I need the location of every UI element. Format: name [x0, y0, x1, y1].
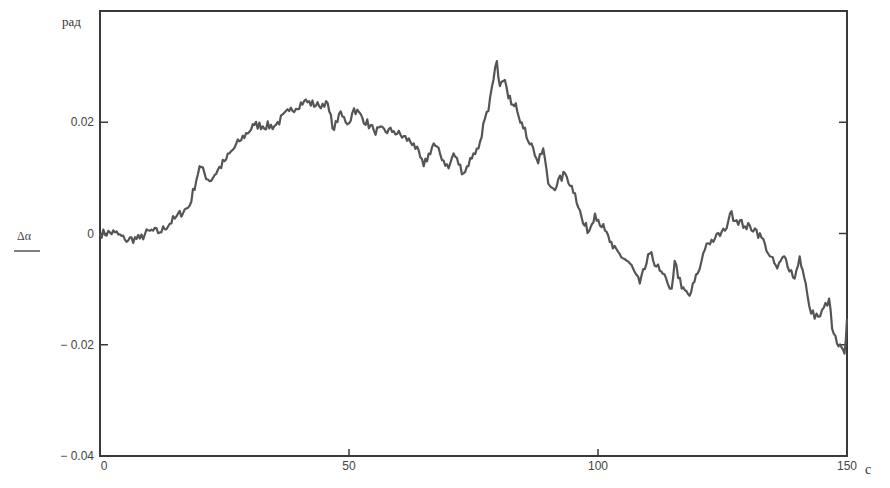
y-tick-label: 0.02	[71, 115, 95, 129]
y-tick-label: − 0.04	[60, 449, 94, 463]
x-tick-label: 100	[588, 459, 608, 473]
x-tick-label: 150	[837, 459, 857, 473]
x-axis-unit-label: с	[865, 462, 871, 477]
legend: Δα	[14, 229, 40, 251]
chart-canvas: 0.020− 0.02− 0.04 050100150 рад с Δα	[0, 0, 890, 488]
y-tick-label: − 0.02	[60, 338, 94, 352]
data-series-delta-alpha	[100, 61, 847, 354]
plot-frame	[100, 11, 847, 456]
x-tick-label: 50	[342, 459, 356, 473]
x-axis-ticks: 050100150	[101, 449, 858, 473]
y-tick-label: 0	[87, 227, 94, 241]
x-tick-label: 0	[101, 459, 108, 473]
legend-label: Δα	[17, 229, 32, 243]
y-axis-unit-label: рад	[62, 14, 81, 29]
y-axis-ticks: 0.020− 0.02− 0.04	[60, 115, 847, 463]
